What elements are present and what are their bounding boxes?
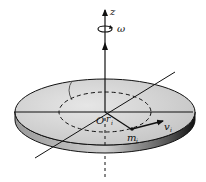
- omega-vector-arrowhead: [102, 42, 108, 50]
- origin-label: O: [96, 115, 104, 126]
- z-axis-label: z: [109, 6, 116, 17]
- radius-subscript: i: [111, 119, 113, 126]
- mass-subscript: i: [136, 137, 138, 144]
- omega-label: ω: [117, 23, 125, 34]
- velocity-subscript: i: [170, 126, 172, 133]
- rotating-disk-diagram: z ω O r i m i v i: [0, 0, 206, 182]
